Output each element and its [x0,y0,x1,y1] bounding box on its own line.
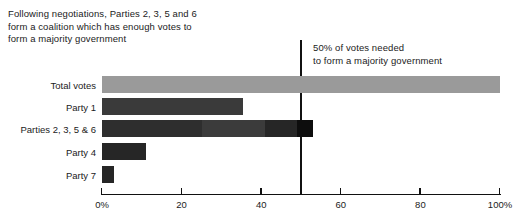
bar-segment-party-7 [102,166,114,183]
category-label: Party 1 [0,103,96,113]
category-label: Parties 2, 3, 5 & 6 [0,125,96,135]
x-axis-tick [101,188,102,195]
bar-row [102,98,243,115]
x-axis-tick [340,188,341,195]
x-axis-tick-label: 60 [336,199,347,210]
bar-segment-party-4 [102,143,146,160]
bar-segment-party-5 [265,120,297,137]
x-axis-tick [419,188,420,195]
x-axis-tick [181,188,182,195]
bar-row [102,120,313,137]
bar-segment-party-6 [297,120,313,137]
x-axis-line [101,194,501,195]
bar-segment-party-3 [202,120,266,137]
bar-segment-party-2 [102,120,202,137]
x-axis-tick [499,188,500,195]
bar-segment-party-1 [102,98,243,115]
x-axis-tick-label: 100% [488,199,512,210]
category-label: Party 4 [0,148,96,158]
bar-segment-total-votes [102,76,500,93]
category-label: Party 7 [0,171,96,181]
bar-row [102,76,500,93]
x-axis-tick-label: 0% [95,199,109,210]
category-label: Total votes [0,81,96,91]
x-axis-tick [260,188,261,195]
x-axis-tick-label: 20 [176,199,187,210]
bar-row [102,143,146,160]
x-axis-tick-label: 40 [256,199,267,210]
bar-row [102,166,114,183]
category-axis-labels: Total votesParty 1Parties 2, 3, 5 & 6Par… [0,0,96,223]
plot-area [102,0,500,223]
bar-chart: Following negotiations, Parties 2, 3, 5 … [0,0,517,223]
x-axis-tick-label: 80 [415,199,426,210]
